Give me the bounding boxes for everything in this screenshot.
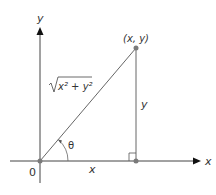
angle-theta-label: θ [68, 140, 74, 151]
hypotenuse-label: x² + y² [49, 77, 93, 92]
x-axis-label: x [204, 155, 212, 168]
foot-point [134, 159, 139, 164]
vertical-leg-label: y [140, 98, 148, 111]
y-axis-arrow-icon [37, 27, 44, 35]
angle-theta-arc [58, 140, 68, 161]
point-xy-label: (x, y) [123, 33, 149, 44]
right-triangle-diagram: y x 0 θ (x, y) x² + y² y x [0, 0, 216, 195]
x-axis-arrow-icon [193, 158, 201, 165]
y-axis-label: y [36, 12, 44, 25]
horizontal-leg-label: x [88, 163, 96, 176]
hypotenuse-line [40, 48, 136, 161]
hypotenuse-radicand: x² + y² [57, 81, 93, 92]
origin-label: 0 [29, 166, 36, 179]
origin-point [38, 159, 43, 164]
point-xy [134, 46, 139, 51]
